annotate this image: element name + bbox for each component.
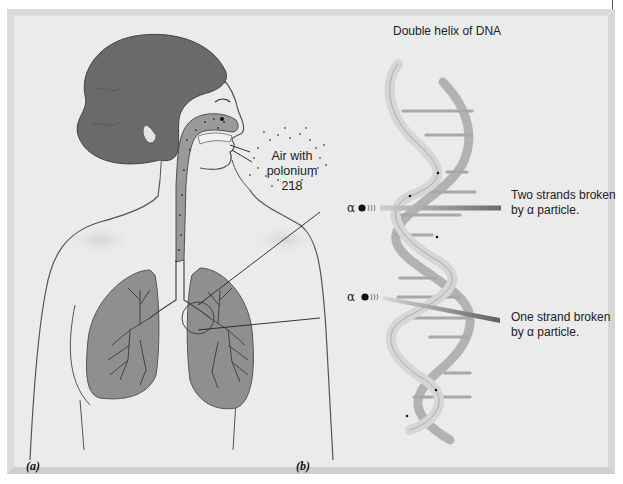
- alpha-beam-two-strand-break: [380, 206, 501, 211]
- leader-line-upper: [198, 212, 320, 305]
- air-polonium-callout: Air with polonium 218: [262, 149, 322, 194]
- one-strand-broken-line2: by α particle.: [511, 325, 621, 340]
- panel-tag-a: (a): [26, 459, 40, 474]
- one-strand-broken-label: One strand broken by α particle.: [511, 310, 621, 340]
- left-lung: [87, 270, 159, 399]
- person-figure: [30, 34, 333, 460]
- dna-figure-title: Double helix of DNA: [393, 24, 501, 38]
- hair: [77, 34, 226, 164]
- two-strands-broken-line2: by α particle.: [511, 203, 621, 218]
- figure-illustration: [0, 0, 623, 484]
- alpha-particle-upper: [358, 204, 501, 211]
- panel-tag-b: (b): [296, 459, 310, 474]
- air-polonium-line1: Air with: [262, 149, 322, 164]
- two-strands-broken-label: Two strands broken by α particle.: [511, 188, 621, 218]
- right-lung: [187, 268, 253, 409]
- dna-double-helix: [390, 64, 475, 440]
- two-strands-broken-line1: Two strands broken: [511, 188, 621, 203]
- alpha-symbol-lower: α: [347, 290, 355, 304]
- one-strand-broken-line1: One strand broken: [511, 310, 621, 325]
- air-polonium-line3: 218: [262, 179, 322, 194]
- alpha-symbol-upper: α: [347, 201, 355, 215]
- air-polonium-line2: polonium: [262, 164, 322, 179]
